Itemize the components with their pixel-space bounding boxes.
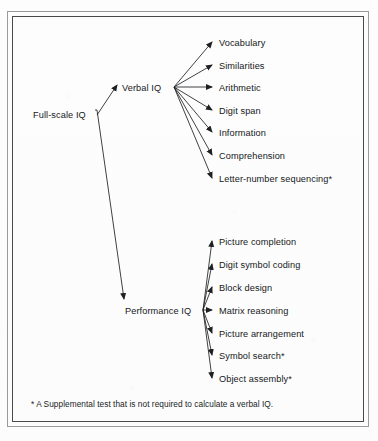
edge-verbal-leaf-6 (174, 87, 212, 178)
leaf-label-performance-2: Block design (219, 284, 272, 293)
leaf-label-verbal-4: Information (219, 129, 266, 138)
edge-performance-leaf-5 (203, 310, 212, 355)
leaf-label-performance-5: Symbol search* (219, 352, 285, 361)
leaf-label-performance-0: Picture completion (219, 238, 296, 247)
node-verbal-iq: Verbal IQ (122, 84, 161, 93)
leaf-label-performance-3: Matrix reasoning (219, 307, 288, 316)
leaf-label-verbal-5: Comprehension (219, 152, 285, 161)
edge-root-to-performance (97, 110, 124, 299)
edge-verbal-leaf-3 (174, 87, 212, 110)
leaf-label-performance-6: Object assembly* (219, 375, 292, 384)
leaf-label-verbal-0: Vocabulary (219, 39, 265, 48)
footnote-text: * A Supplemental test that is not requir… (31, 399, 273, 409)
edge-verbal-leaf-1 (174, 65, 212, 87)
edge-performance-leaf-6 (203, 310, 212, 378)
edge-root-to-verbal (97, 85, 117, 115)
edge-verbal-leaf-0 (174, 42, 212, 87)
edge-verbal-leaf-5 (174, 87, 212, 155)
leaf-label-verbal-3: Digit span (219, 107, 261, 116)
edge-performance-leaf-1 (203, 264, 212, 310)
leaf-label-performance-4: Picture arrangement (219, 330, 304, 339)
edge-verbal-leaf-4 (174, 87, 212, 132)
node-performance-iq: Performance IQ (125, 307, 191, 316)
node-full-scale-iq: Full-scale IQ (33, 111, 86, 120)
leaf-label-verbal-2: Arithmetic (219, 84, 261, 93)
leaf-label-verbal-1: Similarities (219, 62, 265, 71)
diagram-connectors (0, 0, 378, 441)
leaf-label-verbal-6: Letter-number sequencing* (219, 175, 332, 184)
diagram-page: Full-scale IQ Verbal IQ Performance IQ V… (0, 0, 378, 441)
leaf-label-performance-1: Digit symbol coding (219, 261, 300, 270)
